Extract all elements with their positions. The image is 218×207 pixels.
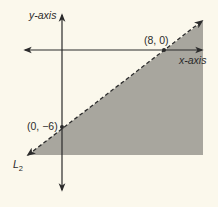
point-0-neg6 [60, 125, 64, 129]
x-axis-label: x-axis [178, 54, 207, 66]
point-8-0 [162, 48, 166, 52]
y-axis-label: y-axis [28, 9, 57, 21]
line-l2-label: L2 [13, 158, 23, 173]
point-0-neg6-label: (0, −6) [27, 120, 58, 132]
point-8-0-label: (8, 0) [144, 34, 169, 46]
graph: y-axis x-axis (8, 0) (0, −6) L2 [0, 0, 218, 207]
